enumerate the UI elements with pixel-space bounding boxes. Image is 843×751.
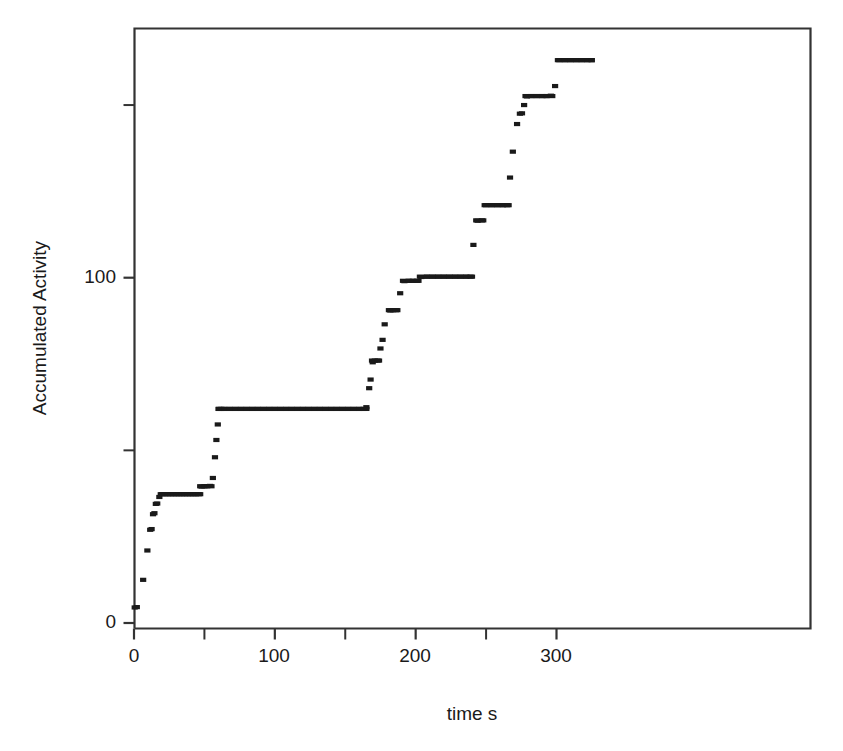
data-marker: [519, 111, 525, 115]
data-marker: [556, 58, 562, 62]
data-marker: [467, 275, 473, 279]
data-marker: [507, 175, 513, 179]
data-marker: [351, 407, 357, 411]
data-marker: [424, 275, 430, 279]
data-marker: [317, 407, 323, 411]
data-marker: [300, 407, 306, 411]
data-marker: [552, 84, 558, 88]
data-marker: [489, 203, 495, 207]
data-marker: [452, 275, 458, 279]
data-marker: [210, 476, 216, 480]
data-marker: [446, 275, 452, 279]
data-marker: [393, 308, 399, 312]
data-marker: [418, 275, 424, 279]
data-marker: [528, 94, 534, 98]
data-marker: [322, 407, 328, 411]
data-marker: [149, 527, 155, 531]
data-marker: [232, 407, 238, 411]
data-marker: [154, 501, 160, 505]
data-marker: [238, 407, 244, 411]
data-marker: [294, 407, 300, 411]
data-marker: [414, 279, 420, 283]
data-marker: [151, 511, 157, 515]
data-marker: [589, 58, 595, 62]
data-marker: [213, 438, 219, 442]
data-marker: [458, 275, 464, 279]
data-marker: [579, 58, 585, 62]
data-marker: [470, 243, 476, 247]
data-marker: [483, 203, 489, 207]
data-marker: [494, 203, 500, 207]
data-marker: [207, 484, 213, 488]
data-marker: [144, 548, 150, 552]
axis-ticks: [124, 105, 557, 639]
data-marker: [249, 407, 255, 411]
data-marker: [397, 291, 403, 295]
data-marker: [244, 407, 250, 411]
data-series-accumulated-activity: [132, 58, 595, 610]
data-marker: [260, 407, 266, 411]
data-marker: [479, 218, 485, 222]
data-marker: [567, 58, 573, 62]
data-marker: [382, 322, 388, 326]
data-marker: [573, 58, 579, 62]
data-marker: [345, 407, 351, 411]
data-marker: [377, 346, 383, 350]
data-marker: [534, 94, 540, 98]
data-marker: [510, 150, 516, 154]
plot-frame: [135, 29, 811, 629]
data-marker: [306, 407, 312, 411]
data-marker: [272, 407, 278, 411]
data-marker: [363, 405, 369, 409]
data-marker: [277, 407, 283, 411]
data-marker: [339, 407, 345, 411]
data-marker: [504, 203, 510, 207]
data-marker: [429, 275, 435, 279]
data-marker: [215, 422, 221, 426]
data-marker: [283, 407, 289, 411]
data-marker: [289, 407, 295, 411]
data-marker: [514, 122, 520, 126]
data-marker: [562, 58, 568, 62]
data-marker: [366, 386, 372, 390]
data-marker: [266, 407, 272, 411]
data-marker: [435, 275, 441, 279]
plot-canvas: [0, 0, 843, 751]
data-marker: [196, 492, 202, 496]
data-marker: [227, 407, 233, 411]
data-marker: [221, 407, 227, 411]
data-marker: [548, 94, 554, 98]
chart-figure: Accumulated Activity 100 0 0 100 200 300…: [0, 0, 843, 751]
data-marker: [134, 605, 140, 609]
data-marker: [521, 103, 527, 107]
data-marker: [368, 377, 374, 381]
data-marker: [311, 407, 317, 411]
data-marker: [328, 407, 334, 411]
data-marker: [140, 578, 146, 582]
data-marker: [375, 358, 381, 362]
data-marker: [379, 338, 385, 342]
data-marker: [255, 407, 261, 411]
data-marker: [441, 275, 447, 279]
data-marker: [334, 407, 340, 411]
data-marker: [212, 455, 218, 459]
